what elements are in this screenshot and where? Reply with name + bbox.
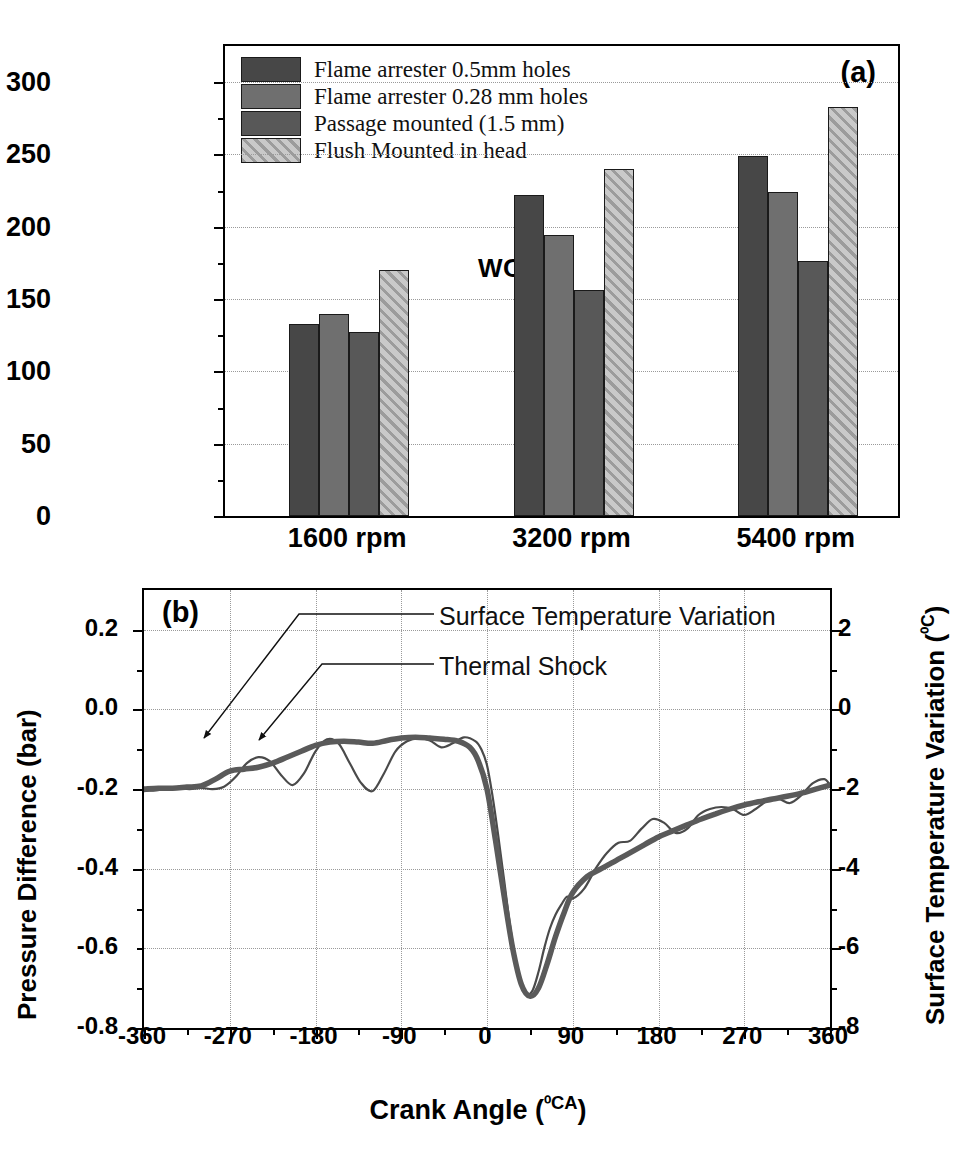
y-tick-mark bbox=[218, 480, 225, 482]
y-tick-label-right: -8 bbox=[838, 1012, 918, 1040]
legend-swatch-icon bbox=[241, 84, 301, 109]
legend-label: Flame arrester 0.28 mm holes bbox=[314, 84, 588, 110]
bar bbox=[768, 192, 798, 516]
y-tick-mark-left bbox=[137, 670, 144, 672]
x-category-label: 5400 rpm bbox=[716, 523, 876, 554]
y-tick-mark-right bbox=[830, 988, 837, 990]
y-tick-label: 300 bbox=[0, 67, 51, 98]
legend-item: Flame arrester 0.5mm holes bbox=[241, 56, 588, 83]
x-tick-mark bbox=[616, 1028, 618, 1035]
x-tick-mark bbox=[358, 1028, 360, 1035]
axis-label-x-unit: ⁰CA bbox=[544, 1092, 578, 1113]
axis-label-x-panel-b: Crank Angle (⁰CA) bbox=[0, 1092, 956, 1126]
y-tick-label: 200 bbox=[0, 211, 51, 242]
y-tick-mark-left bbox=[133, 869, 144, 871]
bar bbox=[798, 261, 828, 516]
line-chart-panel-b: Pressure Difference (bar) Surface Temper… bbox=[0, 570, 956, 1160]
bar bbox=[544, 235, 574, 516]
x-category-label: 3200 rpm bbox=[492, 523, 652, 554]
y-tick-label-right: -4 bbox=[838, 853, 918, 881]
x-tick-label: -180 bbox=[289, 1022, 337, 1050]
legend-label: Flame arrester 0.5mm holes bbox=[314, 57, 571, 83]
curve-surface-temperature-variation bbox=[144, 737, 830, 994]
y-tick-mark-left bbox=[137, 988, 144, 990]
x-tick-mark bbox=[444, 1028, 446, 1035]
x-tick-label: 180 bbox=[636, 1022, 676, 1050]
bar bbox=[604, 169, 634, 516]
plot-area-panel-a: (a) Flame arrester 0.5mm holes Flame arr… bbox=[223, 44, 900, 518]
y-tick-label-left: -0.8 bbox=[8, 1012, 118, 1040]
y-tick-mark-left bbox=[133, 789, 144, 791]
y-tick-label-left: -0.4 bbox=[8, 853, 118, 881]
y-tick-label-right: -6 bbox=[838, 932, 918, 960]
x-tick-mark bbox=[530, 1028, 532, 1035]
x-tick-label: -90 bbox=[382, 1022, 417, 1050]
y-tick-label: 50 bbox=[0, 428, 51, 459]
panel-a-tag: (a) bbox=[841, 56, 876, 89]
x-tick-mark bbox=[787, 1028, 789, 1035]
y-tick-mark bbox=[214, 371, 225, 373]
plot-area-panel-b: (b) Surface Temperature Variation Therma… bbox=[142, 588, 832, 1030]
legend-item: Flush Mounted in head bbox=[241, 137, 588, 164]
y-tick-mark bbox=[214, 227, 225, 229]
x-tick-mark bbox=[187, 1028, 189, 1035]
y-tick-mark-left bbox=[133, 709, 144, 711]
x-tick-mark bbox=[273, 1028, 275, 1035]
curve-label-surface-temperature-variation: Surface Temperature Variation bbox=[439, 602, 776, 631]
legend-swatch-icon bbox=[241, 57, 301, 82]
y-tick-mark bbox=[218, 118, 225, 120]
y-tick-label: 150 bbox=[0, 284, 51, 315]
y-tick-label-left: -0.2 bbox=[8, 773, 118, 801]
curve-thermal-shock bbox=[144, 737, 830, 996]
y-tick-mark bbox=[214, 82, 225, 84]
y-tick-label: 250 bbox=[0, 139, 51, 170]
x-tick-mark bbox=[701, 1028, 703, 1035]
legend-item: Flame arrester 0.28 mm holes bbox=[241, 83, 588, 110]
x-tick-label: -360 bbox=[118, 1022, 166, 1050]
legend-label: Passage mounted (1.5 mm) bbox=[314, 111, 564, 137]
curve-label-thermal-shock: Thermal Shock bbox=[439, 652, 607, 681]
y-tick-mark bbox=[218, 263, 225, 265]
x-category-label: 1600 rpm bbox=[267, 523, 427, 554]
bar bbox=[828, 107, 858, 516]
y-tick-mark-left bbox=[137, 749, 144, 751]
axis-label-y-right-panel-b: Surface Temperature Variation (⁰C) bbox=[918, 605, 951, 1025]
y-tick-label-left: -0.6 bbox=[8, 932, 118, 960]
legend-swatch-icon bbox=[241, 111, 301, 136]
x-tick-label: 270 bbox=[722, 1022, 762, 1050]
y-tick-mark-right bbox=[830, 749, 837, 751]
x-tick-label: 360 bbox=[808, 1022, 848, 1050]
y-tick-label-right: -2 bbox=[838, 773, 918, 801]
bar-chart-panel-a: DiaphragmTempeature (⁰C) (a) Flame arres… bbox=[0, 0, 956, 570]
gridline bbox=[225, 82, 898, 83]
y-tick-label-right: 2 bbox=[838, 614, 918, 642]
y-tick-mark bbox=[214, 154, 225, 156]
y-tick-mark-right bbox=[830, 909, 837, 911]
gridline bbox=[225, 154, 898, 155]
x-tick-label: 90 bbox=[557, 1022, 584, 1050]
y-tick-mark bbox=[214, 299, 225, 301]
y-tick-mark-left bbox=[133, 630, 144, 632]
y-tick-mark bbox=[218, 408, 225, 410]
y-tick-label-right: 0 bbox=[838, 693, 918, 721]
legend-label: Flush Mounted in head bbox=[314, 138, 527, 164]
x-tick-label: 0 bbox=[478, 1022, 491, 1050]
bar bbox=[319, 314, 349, 516]
bar bbox=[514, 195, 544, 516]
y-tick-label: 0 bbox=[0, 501, 51, 532]
legend-item: Passage mounted (1.5 mm) bbox=[241, 110, 588, 137]
y-tick-label-left: 0.2 bbox=[8, 614, 118, 642]
bar bbox=[289, 324, 319, 516]
y-tick-mark-left bbox=[137, 909, 144, 911]
y-tick-label-left: 0.0 bbox=[8, 693, 118, 721]
y-tick-label: 100 bbox=[0, 356, 51, 387]
y-tick-mark-left bbox=[137, 829, 144, 831]
y-tick-mark-left bbox=[137, 948, 144, 950]
axis-label-y-right-unit: ⁰C bbox=[918, 614, 938, 634]
y-tick-mark-right bbox=[830, 670, 837, 672]
legend-panel-a: Flame arrester 0.5mm holes Flame arreste… bbox=[241, 56, 588, 164]
x-tick-label: -270 bbox=[204, 1022, 252, 1050]
bar bbox=[379, 270, 409, 516]
legend-swatch-icon bbox=[241, 138, 301, 163]
bar bbox=[574, 290, 604, 516]
